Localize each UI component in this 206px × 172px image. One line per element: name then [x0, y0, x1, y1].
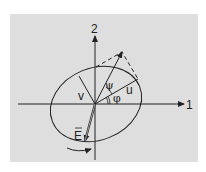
minor-axis-label: v [78, 89, 84, 103]
rotation-direction-arrow [67, 148, 91, 151]
polarization-ellipse-diagram: 2 1 v u ψ φ E [0, 0, 206, 172]
psi-label: ψ [105, 79, 114, 92]
field-label: E [74, 129, 82, 143]
major-axis-label: u [126, 83, 133, 97]
phi-arc [106, 98, 108, 105]
phi-label: φ [113, 92, 121, 105]
axis-1-label: 1 [186, 98, 193, 112]
axis-2-label: 2 [91, 22, 98, 36]
